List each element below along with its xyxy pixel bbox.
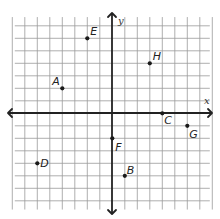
- point-label-f: F: [115, 141, 122, 154]
- point-e: [85, 36, 89, 40]
- x-axis-label: x: [204, 95, 210, 106]
- point-a: [60, 86, 64, 90]
- point-label-h: H: [153, 50, 161, 63]
- point-label-d: D: [40, 157, 48, 170]
- point-label-c: C: [164, 114, 172, 127]
- points: ABCDEFGH: [35, 25, 198, 178]
- point-label-g: G: [189, 128, 198, 141]
- point-h: [148, 61, 152, 65]
- point-f: [110, 136, 114, 140]
- point-label-a: A: [51, 75, 60, 88]
- point-label-b: B: [127, 164, 135, 177]
- coordinate-plane: x y ABCDEFGH: [0, 0, 220, 219]
- point-label-e: E: [90, 25, 97, 38]
- axes: x y: [8, 13, 212, 214]
- point-d: [35, 161, 39, 165]
- y-axis-label: y: [117, 15, 124, 26]
